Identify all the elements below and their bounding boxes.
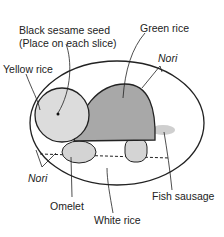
label-white-rice: White rice <box>94 214 141 226</box>
label-black-sesame-line1: Black sesame seed <box>19 24 110 36</box>
label-fish-sausage: Fish sausage <box>152 190 214 202</box>
back-leg-omelet <box>125 138 147 162</box>
label-black-sesame-line2: (Place on each slice) <box>19 37 116 49</box>
front-leg-omelet <box>62 141 96 163</box>
label-omelet: Omelet <box>50 200 84 212</box>
label-yellow-rice: Yellow rice <box>3 63 53 75</box>
label-nori-left: Nori <box>28 172 47 184</box>
label-nori-top: Nori <box>158 52 177 64</box>
label-green-rice: Green rice <box>140 22 189 34</box>
head-yellow-rice <box>35 88 89 142</box>
